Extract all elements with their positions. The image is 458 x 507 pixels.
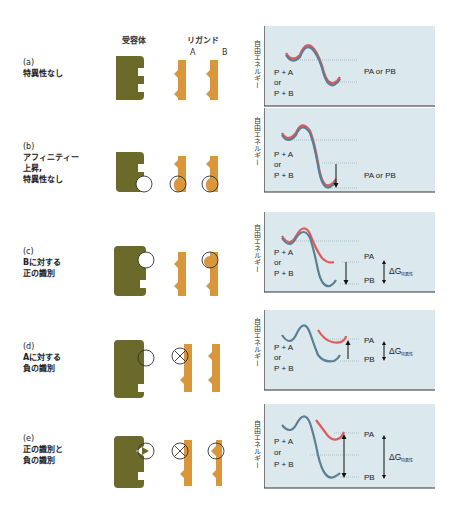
row-text: Aに対する 負の識別 [23,352,61,374]
or-text: or [274,258,281,267]
receptor-shape [116,152,144,192]
row-b: (b) アフィニティー 上昇, 特異性なし 自由エネルギー P + A or P… [0,100,458,200]
row-tag: (a) [23,57,63,68]
ligand-a-shape [174,156,186,192]
reactant-b-text: P + B [274,364,294,373]
y-axis-label: 自由エネルギー [250,318,262,367]
or-text: or [274,448,281,457]
pa-text: PA [364,336,375,345]
row-text: 正の識別と 負の識別 [23,444,63,466]
ligand-a-shape [174,60,186,100]
row-a: (a) 特異性なし 自由エネルギー P + A or P + B PA or P… [0,0,458,100]
row-text: Bに対する 正の識別 [23,257,61,279]
y-axis-label: 自由エネルギー [250,420,262,469]
product-text: PA or PB [364,171,396,180]
reactant-a-text: P + A [274,68,294,77]
energy-diagram-c: P + A or P + B PA PB ΔG 特異性 [264,212,435,294]
pb-text: PB [364,355,375,364]
reactant-a-text: P + A [274,248,294,257]
delta-g-text: ΔG [389,266,401,276]
ligand-a-shape [174,252,186,296]
ligand-b-shape [211,440,222,486]
product-text: PA or PB [364,67,396,76]
row-tag: (c) [23,246,61,257]
y-axis-label: 自由エネルギー [250,117,262,166]
energy-diagram-a: P + A or P + B PA or PB [264,26,435,108]
delta-g-subscript: 特異性 [401,457,413,463]
row-d: (d) Aに対する 負の識別 自由エネルギー P + A or P + B PA… [0,300,458,400]
reactant-a-text: P + A [274,437,294,446]
receptor-ligand-shapes [112,100,242,200]
energy-diagram-b: P + A or P + B PA or PB [264,108,435,194]
receptor-shape [114,436,144,488]
receptor-ligand-shapes [112,200,242,300]
ligand-b-shape [206,156,218,192]
pa-text: PA [364,252,375,261]
ligand-b-shape [208,344,220,392]
row-tag: (e) [23,433,63,444]
receptor-shape [116,56,144,100]
or-text: or [274,78,281,87]
row-label: (e) 正の識別と 負の識別 [23,433,63,466]
y-axis-label: 自由エネルギー [250,40,262,89]
pb-text: PB [364,276,375,285]
delta-g-subscript: 特異性 [401,351,413,357]
ligand-a-shape [180,440,192,486]
delta-g-text: ΔG [389,346,401,356]
ligand-b-shape [206,60,218,100]
receptor-ligand-shapes [112,400,242,500]
row-c: (c) Bに対する 正の識別 自由エネルギー P + A or P + B PA… [0,200,458,300]
delta-g-subscript: 特異性 [401,271,413,277]
reactant-a-text: P + A [274,150,294,159]
or-text: or [274,353,281,362]
row-text: 特異性なし [23,68,63,79]
reactant-b-text: P + B [274,460,294,469]
row-text: アフィニティー 上昇, 特異性なし [23,152,79,185]
energy-diagram-e: P + A or P + B PA PB ΔG 特異性 [264,404,435,490]
row-e: (e) 正の識別と 負の識別 自由エネルギー P + A or P + B PA… [0,400,458,500]
receptor-ligand-shapes [112,300,242,400]
row-tag: (b) [23,141,79,152]
reactant-a-text: P + A [274,343,294,352]
receptor-shape [114,340,144,398]
delta-g-text: ΔG [389,452,401,462]
row-label: (d) Aに対する 負の識別 [23,341,61,374]
row-label: (c) Bに対する 正の識別 [23,246,61,279]
energy-diagram-d: P + A or P + B PA PB ΔG 特異性 [264,310,435,392]
row-label: (b) アフィニティー 上昇, 特異性なし [23,141,79,185]
or-text: or [274,160,281,169]
row-label: (a) 特異性なし [23,57,63,79]
reactant-b-text: P + B [274,269,294,278]
pa-text: PA [364,430,375,439]
ligand-b-shape [204,252,218,296]
reactant-b-text: P + B [274,89,294,98]
reactant-b-text: P + B [274,171,294,180]
row-tag: (d) [23,341,61,352]
pb-text: PB [364,473,375,482]
receptor-ligand-shapes [112,0,242,100]
y-axis-label: 自由エネルギー [250,224,262,273]
